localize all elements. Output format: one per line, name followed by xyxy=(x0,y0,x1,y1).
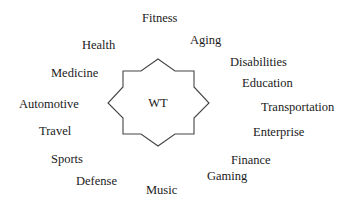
topic-transportation: Transportation xyxy=(261,100,334,114)
center-label: WT xyxy=(148,96,167,111)
topic-medicine: Medicine xyxy=(51,66,98,80)
topic-health: Health xyxy=(82,38,115,52)
topic-gaming: Gaming xyxy=(207,169,247,183)
topic-enterprise: Enterprise xyxy=(253,125,304,139)
topic-fitness: Fitness xyxy=(142,11,177,25)
topic-defense: Defense xyxy=(76,174,117,188)
topic-disabilities: Disabilities xyxy=(230,55,287,69)
topic-music: Music xyxy=(146,183,177,197)
topic-automotive: Automotive xyxy=(19,97,79,111)
topic-finance: Finance xyxy=(231,153,271,167)
diagram-canvas: WT Fitness Aging Health Disabilities Med… xyxy=(0,0,347,206)
topic-sports: Sports xyxy=(51,152,83,166)
topic-education: Education xyxy=(242,76,293,90)
topic-travel: Travel xyxy=(39,124,71,138)
topic-aging: Aging xyxy=(190,33,221,47)
